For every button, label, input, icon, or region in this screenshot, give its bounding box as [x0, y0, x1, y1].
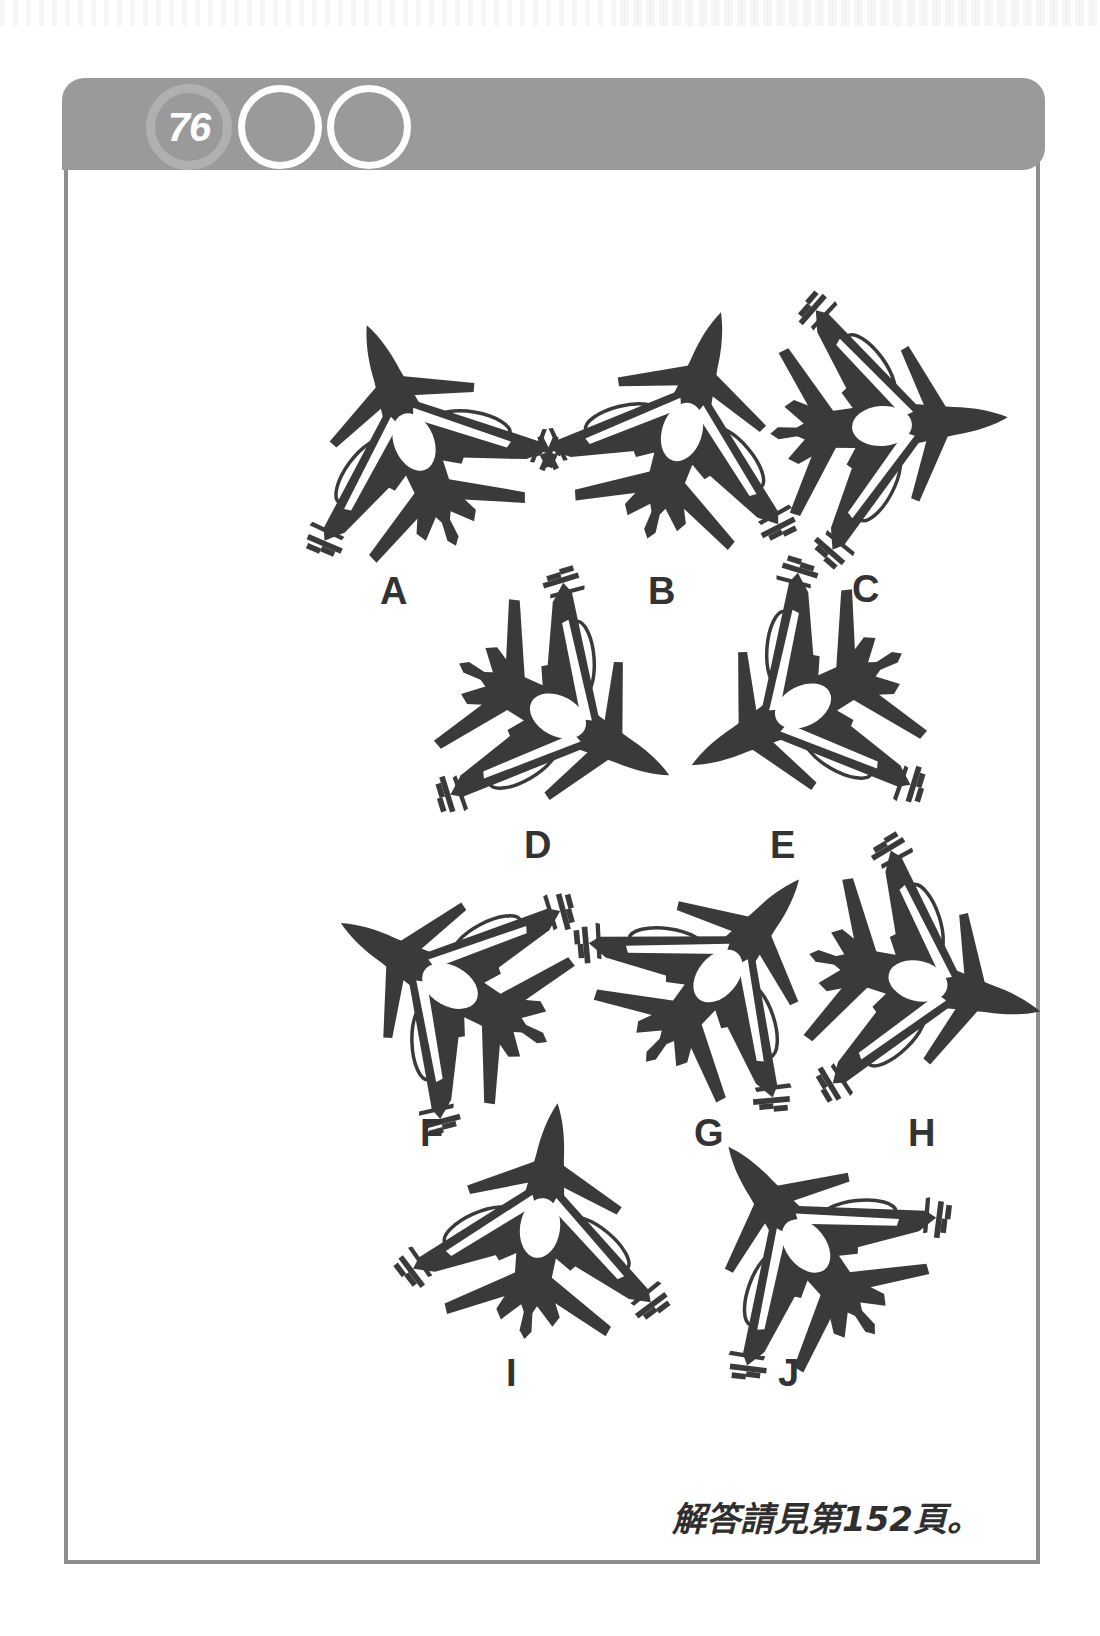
header-circle-2 [238, 85, 322, 169]
header-circle-3 [327, 85, 411, 169]
jet-label-b: B [648, 572, 675, 610]
jet-label-f: F [420, 1114, 443, 1152]
jet-label-h: H [908, 1114, 935, 1152]
jet-label-e: E [770, 826, 795, 864]
scan-artifact-right [620, 0, 1100, 26]
page-number-text: 76 [155, 93, 223, 161]
jet-label-j: J [778, 1354, 799, 1392]
page-frame: ABCDEFGHIJ [64, 92, 1040, 1564]
jet-label-d: D [524, 826, 551, 864]
jet-label-i: I [506, 1354, 517, 1392]
page-number-circle: 76 [146, 84, 232, 170]
jet-label-a: A [380, 572, 407, 610]
answer-reference-note: 解答請見第152頁。 [672, 1492, 981, 1541]
jet-label-g: G [694, 1114, 724, 1152]
jet-label-c: C [852, 570, 879, 608]
